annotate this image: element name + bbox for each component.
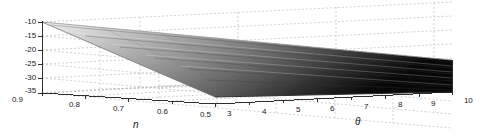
y-tick-label-3: 5 bbox=[296, 105, 300, 114]
x-tick-label-1: 0.9 bbox=[12, 95, 23, 104]
y-tick-label-8: 10 bbox=[464, 96, 473, 105]
z-tick-label-1: -10 bbox=[12, 17, 36, 26]
x-tick-label-3: 0.7 bbox=[113, 104, 124, 113]
plot-canvas bbox=[0, 0, 495, 136]
z-tick-label-4: -25 bbox=[12, 59, 36, 68]
x-tick-label-2: 0.8 bbox=[69, 100, 80, 109]
y-tick-label-1: 3 bbox=[227, 109, 231, 118]
z-tick-label-5: -30 bbox=[12, 73, 36, 82]
z-tick-label-3: -20 bbox=[12, 45, 36, 54]
y-axis-title: θ bbox=[355, 116, 360, 127]
y-tick-label-5: 7 bbox=[364, 102, 368, 111]
y-tick-label-2: 4 bbox=[262, 107, 266, 116]
x-tick-label-4: 0.6 bbox=[157, 107, 168, 116]
y-tick-label-7: 9 bbox=[431, 99, 435, 108]
x-axis-title: n bbox=[133, 119, 139, 130]
y-tick-label-4: 6 bbox=[330, 104, 334, 113]
x-tick-label-5: 0.5 bbox=[200, 110, 211, 119]
surface-plot-figure: -10 -15 -20 -25 -30 -35 0.9 0.8 0.7 0.6 … bbox=[0, 0, 495, 136]
y-tick-label-6: 8 bbox=[398, 100, 402, 109]
z-tick-label-2: -15 bbox=[12, 31, 36, 40]
z-tick-label-6: -35 bbox=[12, 86, 36, 95]
